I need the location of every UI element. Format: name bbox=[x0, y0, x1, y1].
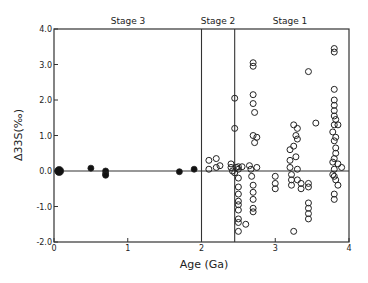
open-data-point bbox=[335, 122, 341, 128]
filled-data-point bbox=[191, 166, 197, 172]
open-data-point bbox=[235, 207, 241, 213]
open-data-point bbox=[335, 182, 341, 188]
open-data-point bbox=[294, 136, 300, 142]
chart-labels: Stage 3 Stage 2 Stage 1 Age (Ga) Δ33S(‰) bbox=[12, 16, 307, 271]
open-data-point bbox=[331, 138, 337, 144]
open-data-point bbox=[213, 156, 219, 162]
open-data-point bbox=[330, 172, 336, 178]
open-data-point bbox=[287, 164, 293, 170]
open-data-point bbox=[235, 228, 241, 234]
x-axis-label: Age (Ga) bbox=[180, 258, 229, 271]
open-data-point bbox=[339, 164, 345, 170]
open-data-point bbox=[305, 184, 311, 190]
open-data-point bbox=[232, 125, 238, 131]
open-data-point bbox=[294, 125, 300, 131]
y-tick-label: 4.0 bbox=[39, 25, 52, 34]
open-data-point bbox=[249, 173, 255, 179]
y-tick-label: 1.0 bbox=[39, 132, 52, 141]
stage-1-label: Stage 1 bbox=[273, 16, 308, 26]
y-tick-label: 3.0 bbox=[39, 61, 52, 70]
x-tick-label: 4 bbox=[346, 244, 351, 253]
x-tick-label: 2 bbox=[199, 244, 204, 253]
open-data-point bbox=[252, 109, 258, 115]
open-data-point bbox=[305, 216, 311, 222]
open-data-point bbox=[243, 221, 249, 227]
y-tick-label: -2.0 bbox=[36, 238, 52, 247]
open-data-point bbox=[252, 140, 258, 146]
filled-data-point bbox=[88, 165, 94, 171]
filled-data-point bbox=[176, 169, 182, 175]
open-data-point bbox=[291, 228, 297, 234]
open-data-point bbox=[206, 166, 212, 172]
open-data-point bbox=[235, 191, 241, 197]
open-data-point bbox=[272, 186, 278, 192]
y-tick-label: 2.0 bbox=[39, 96, 52, 105]
open-data-point bbox=[235, 219, 241, 225]
open-data-point bbox=[250, 209, 256, 215]
open-data-point bbox=[272, 173, 278, 179]
open-data-point bbox=[331, 86, 337, 92]
open-data-point bbox=[232, 95, 238, 101]
stage-2-label: Stage 2 bbox=[201, 16, 236, 26]
open-data-point bbox=[305, 69, 311, 75]
y-axis-label: Δ33S(‰) bbox=[12, 109, 25, 161]
open-data-point bbox=[250, 63, 256, 69]
open-data-point bbox=[293, 154, 299, 160]
open-data-point bbox=[250, 189, 256, 195]
open-data-point bbox=[254, 164, 260, 170]
open-data-point bbox=[331, 49, 337, 55]
open-data-point bbox=[313, 120, 319, 126]
scatter-chart: 4.03.02.01.00.0-1.0-2.001234 Stage 3 Sta… bbox=[0, 0, 368, 283]
open-data-point bbox=[250, 101, 256, 107]
open-data-point bbox=[250, 182, 256, 188]
y-tick-label: 0.0 bbox=[39, 167, 52, 176]
open-data-point bbox=[291, 143, 297, 149]
filled-data-point bbox=[55, 167, 64, 176]
open-data-point bbox=[298, 186, 304, 192]
open-data-point bbox=[250, 196, 256, 202]
open-data-point bbox=[287, 157, 293, 163]
y-tick-label: -1.0 bbox=[36, 203, 52, 212]
stage-3-label: Stage 3 bbox=[111, 16, 146, 26]
open-data-point bbox=[248, 166, 254, 172]
open-data-point bbox=[239, 164, 245, 170]
open-data-point bbox=[250, 92, 256, 98]
open-data-point bbox=[331, 196, 337, 202]
x-tick-label: 1 bbox=[125, 244, 130, 253]
filled-data-point bbox=[103, 172, 109, 178]
open-data-point bbox=[206, 157, 212, 163]
open-data-point bbox=[294, 166, 300, 172]
x-tick-label: 0 bbox=[51, 244, 56, 253]
x-tick-label: 3 bbox=[273, 244, 278, 253]
data-points bbox=[55, 46, 345, 235]
open-data-point bbox=[235, 184, 241, 190]
plot-axes: 4.03.02.01.00.0-1.0-2.001234 bbox=[36, 25, 351, 253]
open-data-point bbox=[288, 182, 294, 188]
open-data-point bbox=[217, 163, 223, 169]
open-data-point bbox=[235, 175, 241, 181]
